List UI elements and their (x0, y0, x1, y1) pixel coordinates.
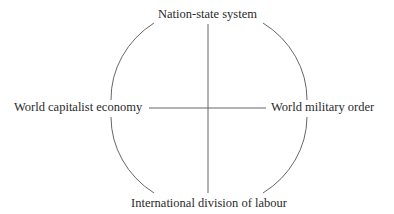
arc-bottom-left (111, 117, 154, 193)
arc-top-right (263, 23, 307, 100)
node-world-capitalist-economy: World capitalist economy (14, 101, 142, 114)
arc-bottom-right (263, 117, 307, 193)
arc-top-left (111, 23, 154, 100)
node-nation-state-system: Nation-state system (158, 8, 257, 21)
node-world-military-order: World military order (271, 101, 374, 114)
node-international-division-of-labour: International division of labour (131, 197, 287, 210)
